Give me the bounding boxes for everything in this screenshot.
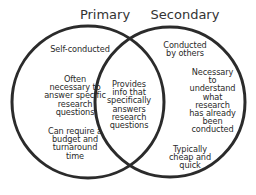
primary-item-self-conducted: Self-conducted [40,45,120,53]
text-line: time [25,152,125,160]
text-line: conducted [180,125,245,133]
secondary-item-conducted-by-others: Conducted by others [155,41,215,57]
text-line: questions [99,121,159,129]
secondary-title: Secondary [140,8,230,21]
text-line: quick [160,161,220,169]
primary-title: Primary [70,8,140,21]
overlap-item-provides-info: Provides info that specifically answers … [99,80,159,129]
secondary-item-necessary-to-understand: Necessary to understand what research ha… [180,68,245,134]
primary-item-budget: Can require a budget and turnaround time [25,127,125,160]
text-line: by others [155,49,215,57]
secondary-item-cheap-quick: Typically cheap and quick [160,145,220,170]
